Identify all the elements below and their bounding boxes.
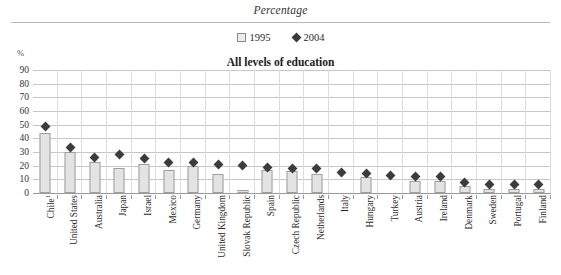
- chart-column[interactable]: [107, 70, 132, 193]
- chart-column[interactable]: [502, 70, 527, 193]
- chart-column[interactable]: [255, 70, 280, 193]
- chart-column[interactable]: [403, 70, 428, 193]
- x-label-slot: Israel: [132, 195, 157, 275]
- chart-column[interactable]: [329, 70, 354, 193]
- bar-1995[interactable]: [410, 181, 421, 193]
- x-axis-label: Turkey: [391, 195, 400, 222]
- y-axis-tick-90: 90: [20, 65, 30, 75]
- x-label-slot: Portugal: [502, 195, 527, 275]
- header-divider: [11, 22, 550, 23]
- x-axis-label: Finland: [539, 195, 548, 223]
- x-label-slot: Italy: [329, 195, 354, 275]
- x-axis-label: Japan: [119, 195, 128, 216]
- x-label-slot: Denmark: [452, 195, 477, 275]
- marker-2004[interactable]: [139, 154, 149, 164]
- marker-2004[interactable]: [40, 121, 50, 131]
- x-label-slot: Spain: [255, 195, 280, 275]
- chart-column[interactable]: [33, 70, 58, 193]
- chart-column[interactable]: [354, 70, 379, 193]
- marker-2004[interactable]: [312, 163, 322, 173]
- x-label-slot: Australia: [82, 195, 107, 275]
- x-axis-label: Spain: [267, 195, 276, 216]
- y-axis-tick-50: 50: [20, 120, 30, 130]
- chart-column[interactable]: [230, 70, 255, 193]
- bar-1995[interactable]: [114, 168, 125, 193]
- x-axis-label: Chile1: [45, 195, 56, 218]
- bar-1995[interactable]: [65, 152, 76, 193]
- bar-1995[interactable]: [40, 133, 51, 193]
- y-axis-unit-label: %: [17, 48, 24, 58]
- x-label-slot: Ireland: [428, 195, 453, 275]
- y-axis-tick-10: 10: [20, 174, 30, 184]
- y-axis-tick-80: 80: [20, 79, 30, 89]
- bar-1995[interactable]: [287, 171, 298, 193]
- x-axis-label: Italy: [341, 195, 350, 212]
- chart-column[interactable]: [452, 70, 477, 193]
- marker-2004[interactable]: [336, 168, 346, 178]
- x-axis-label: Slovak Republic: [243, 195, 252, 257]
- legend-item-1995[interactable]: 1995: [237, 32, 271, 43]
- legend-label-1995: 1995: [250, 32, 271, 43]
- legend-item-2004[interactable]: 2004: [293, 32, 325, 43]
- marker-2004[interactable]: [386, 170, 396, 180]
- filled-diamond-icon: [291, 33, 301, 43]
- x-axis-label: Hungary: [366, 195, 375, 228]
- legend-label-2004: 2004: [304, 32, 325, 43]
- x-label-slot: Czech Republic: [280, 195, 305, 275]
- chart-column[interactable]: [58, 70, 83, 193]
- x-label-slot: Hungary: [354, 195, 379, 275]
- y-axis-tick-70: 70: [20, 92, 30, 102]
- chart-plot-area: 9080706050403020100: [33, 70, 551, 193]
- chart-column[interactable]: [132, 70, 157, 193]
- page-header: Percentage: [0, 0, 561, 26]
- bar-1995[interactable]: [262, 170, 273, 193]
- chart-column[interactable]: [82, 70, 107, 193]
- chart-column[interactable]: [378, 70, 403, 193]
- x-axis-label: Austria: [415, 195, 424, 222]
- x-axis-tick: [550, 195, 551, 199]
- chart-column[interactable]: [181, 70, 206, 193]
- hollow-square-icon: [237, 33, 246, 42]
- bar-1995[interactable]: [188, 166, 199, 193]
- chart-column[interactable]: [428, 70, 453, 193]
- chart-subtitle: All levels of education: [0, 56, 561, 68]
- bar-1995[interactable]: [311, 174, 322, 193]
- x-label-slot: Sweden: [477, 195, 502, 275]
- x-label-slot: United States: [58, 195, 83, 275]
- bar-1995[interactable]: [435, 181, 446, 193]
- y-axis-tick-0: 0: [24, 188, 29, 198]
- bar-1995[interactable]: [361, 177, 372, 193]
- x-axis-labels: Chile1United StatesAustraliaJapanIsraelM…: [33, 195, 551, 275]
- bar-1995[interactable]: [139, 164, 150, 193]
- marker-2004[interactable]: [114, 150, 124, 160]
- bar-1995[interactable]: [213, 174, 224, 193]
- bar-1995[interactable]: [163, 170, 174, 193]
- y-axis-tick-60: 60: [20, 106, 30, 116]
- x-axis-label: United States: [70, 195, 79, 245]
- bar-1995[interactable]: [89, 162, 100, 193]
- chart-column[interactable]: [304, 70, 329, 193]
- x-label-slot: Turkey: [378, 195, 403, 275]
- marker-2004[interactable]: [238, 161, 248, 171]
- x-label-slot: Japan: [107, 195, 132, 275]
- x-axis-label: Israel: [144, 195, 153, 216]
- x-label-slot: Mexico: [156, 195, 181, 275]
- chart-column[interactable]: [526, 70, 551, 193]
- marker-2004[interactable]: [213, 159, 223, 169]
- x-label-slot: Slovak Republic: [230, 195, 255, 275]
- chart-column[interactable]: [206, 70, 231, 193]
- y-axis-tick-20: 20: [20, 161, 30, 171]
- x-axis-label: United Kingdom: [218, 195, 227, 258]
- y-axis-tick-30: 30: [20, 147, 30, 157]
- x-label-slot: Finland: [526, 195, 551, 275]
- bar-1995[interactable]: [533, 189, 544, 193]
- x-axis-label: Ireland: [440, 195, 449, 221]
- chart-column[interactable]: [156, 70, 181, 193]
- bar-1995[interactable]: [237, 190, 248, 193]
- bars-group: [33, 70, 551, 193]
- chart-column[interactable]: [280, 70, 305, 193]
- marker-2004[interactable]: [164, 158, 174, 168]
- x-axis-label: Netherlands: [317, 195, 326, 240]
- x-label-slot: Germany: [181, 195, 206, 275]
- chart-column[interactable]: [477, 70, 502, 193]
